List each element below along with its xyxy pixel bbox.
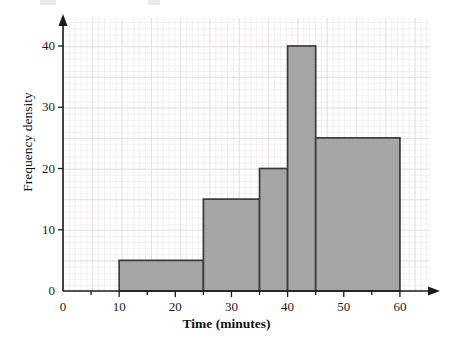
x-tick-label: 40: [281, 299, 294, 315]
histogram-bars: [119, 46, 400, 291]
x-tick-label: 30: [225, 299, 238, 315]
x-tick-label: 50: [337, 299, 350, 315]
plot-area: [0, 0, 453, 338]
histogram-bar: [203, 199, 259, 291]
x-tick-label: 60: [393, 299, 406, 315]
right-arrow-icon: [428, 287, 440, 296]
x-axis-title: Time (minutes): [0, 316, 453, 332]
y-axis-title: Frequency density: [20, 42, 36, 242]
y-axis: [59, 14, 68, 291]
x-tick-label: 20: [169, 299, 182, 315]
histogram-figure: 0102030405060 010203040 Time (minutes) F…: [0, 0, 453, 338]
up-arrow-icon: [59, 14, 68, 26]
histogram-bar: [119, 260, 203, 291]
y-tick-label: 0: [29, 283, 55, 299]
histogram-bar: [316, 138, 400, 291]
x-tick-label: 0: [60, 299, 67, 315]
x-tick-label: 10: [113, 299, 126, 315]
histogram-bar: [260, 169, 288, 292]
histogram-bar: [288, 46, 316, 291]
